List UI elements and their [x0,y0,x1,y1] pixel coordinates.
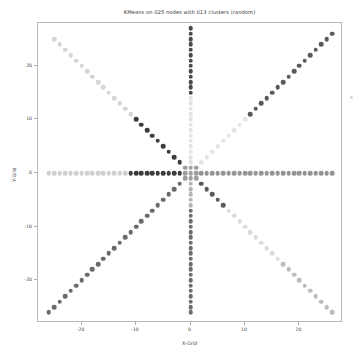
scatter-point [205,155,210,160]
edge-artifact-dot [350,96,353,99]
scatter-point [117,240,122,245]
scatter-point [210,171,215,176]
scatter-point [221,139,226,144]
scatter-point [52,171,57,176]
scatter-point [188,305,193,310]
x-tick-mark [135,322,136,325]
scatter-point [156,139,161,144]
scatter-point [254,106,259,111]
scatter-point [330,310,335,315]
scatter-point [188,155,193,160]
scatter-point [308,53,313,58]
scatter-point [188,214,193,219]
scatter-point [210,149,215,154]
scatter-point [319,42,324,47]
scatter-point [237,122,242,127]
scatter-point [248,171,253,176]
scatter-point [226,208,231,213]
scatter-point [85,69,90,74]
scatter-point [145,214,150,219]
scatter-point [188,53,193,58]
scatter-point [188,133,193,138]
scatter-point [79,278,84,283]
scatter-point [330,31,335,36]
scatter-point [226,171,231,176]
scatter-point [286,171,291,176]
scatter-point [63,47,68,52]
scatter-point [188,101,193,106]
scatter-point [259,101,264,106]
scatter-point [90,267,95,272]
scatter-point [188,230,193,235]
scatter-point [156,171,161,176]
scatter-point [188,149,193,154]
y-axis-label: Y-Grid [12,145,17,205]
scatter-point [275,85,280,90]
scatter-point [232,128,237,133]
y-tick-mark [34,65,37,66]
y-tick-label: 10 [6,116,32,121]
scatter-point [313,171,318,176]
scatter-point [308,289,313,294]
scatter-point [237,171,242,176]
y-tick-label: -10 [6,223,32,228]
scatter-point [183,176,188,181]
scatter-point [188,240,193,245]
scatter-point [123,235,128,240]
matplotlib-figure: KMeans on 025 nodes with 013 clusters (r… [0,0,359,362]
scatter-point [215,171,220,176]
scatter-point [107,171,112,176]
scatter-point [68,53,73,58]
scatter-point [177,181,182,186]
scatter-point [188,262,193,267]
scatter-point [134,171,139,176]
scatter-point [150,171,155,176]
scatter-point [188,283,193,288]
scatter-point [57,299,62,304]
scatter-point [303,283,308,288]
scatter-point [74,283,79,288]
scatter-point [57,42,62,47]
scatter-point [313,47,318,52]
scatter-point [188,31,193,36]
scatter-point [205,187,210,192]
scatter-point [188,106,193,111]
y-tick-mark [34,172,37,173]
scatter-point [90,74,95,79]
scatter-point [112,246,117,251]
scatter-point [177,160,182,165]
scatter-point [128,230,133,235]
scatter-point [281,80,286,85]
scatter-point [47,310,52,315]
scatter-point [292,69,297,74]
scatter-point [74,171,79,176]
scatter-point [188,160,193,165]
scatter-point [254,171,259,176]
scatter-point [183,171,188,176]
scatter-point [286,74,291,79]
scatter-point [188,144,193,149]
scatter-point [74,58,79,63]
scatter-point [324,37,329,42]
scatter-point [47,171,52,176]
scatter-point [128,112,133,117]
scatter-point [303,171,308,176]
scatter-point [194,176,199,181]
scatter-point [188,208,193,213]
scatter-point [68,289,73,294]
scatter-point [161,144,166,149]
x-tick-label: 20 [285,327,311,332]
scatter-point [188,203,193,208]
scatter-point [52,305,57,310]
scatter-point [96,262,101,267]
scatter-point [134,117,139,122]
plot-area[interactable] [37,22,342,322]
scatter-point [221,203,226,208]
scatter-point [188,256,193,261]
scatter-point [254,235,259,240]
y-tick-mark [34,118,37,119]
scatter-point [172,171,177,176]
scatter-point [232,171,237,176]
scatter-point [188,96,193,101]
scatter-point [188,181,193,186]
